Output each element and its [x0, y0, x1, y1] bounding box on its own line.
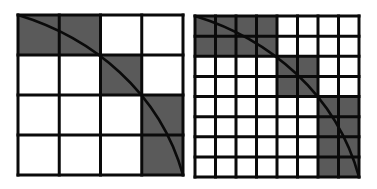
empty-cell — [101, 95, 142, 135]
shaded-cell — [318, 157, 339, 177]
empty-cell — [318, 76, 339, 96]
empty-cell — [257, 117, 278, 137]
empty-cell — [236, 157, 257, 177]
empty-cell — [257, 97, 278, 117]
empty-cell — [298, 16, 319, 36]
shaded-cell — [236, 36, 257, 56]
shaded-cell — [216, 36, 237, 56]
empty-cell — [18, 135, 59, 175]
empty-cell — [318, 56, 339, 76]
fine-grid-svg — [195, 16, 359, 177]
empty-cell — [216, 137, 237, 157]
empty-cell — [142, 55, 183, 95]
empty-cell — [257, 56, 278, 76]
empty-cell — [298, 97, 319, 117]
empty-cell — [18, 95, 59, 135]
empty-cell — [339, 76, 360, 96]
empty-cell — [101, 15, 142, 55]
empty-cell — [59, 135, 100, 175]
empty-cell — [277, 16, 298, 36]
empty-cell — [101, 135, 142, 175]
shaded-cell — [257, 16, 278, 36]
grid-curve-figure — [0, 0, 377, 189]
empty-cell — [195, 56, 216, 76]
empty-cell — [318, 36, 339, 56]
empty-cell — [257, 137, 278, 157]
shaded-cell — [277, 76, 298, 96]
shaded-cell — [195, 36, 216, 56]
empty-cell — [195, 97, 216, 117]
empty-cell — [339, 36, 360, 56]
empty-cell — [298, 36, 319, 56]
empty-cell — [257, 157, 278, 177]
empty-cell — [236, 117, 257, 137]
empty-cell — [18, 55, 59, 95]
empty-cell — [298, 157, 319, 177]
empty-cell — [298, 117, 319, 137]
empty-cell — [339, 16, 360, 36]
empty-cell — [277, 97, 298, 117]
empty-cell — [236, 137, 257, 157]
coarse-grid-panel — [18, 15, 183, 175]
empty-cell — [195, 117, 216, 137]
shaded-cell — [142, 95, 183, 135]
empty-cell — [277, 157, 298, 177]
empty-cell — [216, 76, 237, 96]
empty-cell — [142, 15, 183, 55]
empty-cell — [195, 157, 216, 177]
empty-cell — [277, 117, 298, 137]
empty-cell — [236, 97, 257, 117]
empty-cell — [318, 16, 339, 36]
shaded-cell — [298, 56, 319, 76]
empty-cell — [216, 157, 237, 177]
empty-cell — [339, 56, 360, 76]
empty-cell — [195, 137, 216, 157]
shaded-cell — [339, 97, 360, 117]
empty-cell — [257, 76, 278, 96]
empty-cell — [277, 137, 298, 157]
empty-cell — [236, 56, 257, 76]
empty-cell — [277, 36, 298, 56]
fine-grid-panel — [195, 16, 359, 177]
empty-cell — [59, 55, 100, 95]
empty-cell — [216, 97, 237, 117]
empty-cell — [195, 76, 216, 96]
empty-cell — [236, 76, 257, 96]
coarse-grid-svg — [18, 15, 183, 175]
empty-cell — [216, 117, 237, 137]
empty-cell — [59, 95, 100, 135]
empty-cell — [216, 56, 237, 76]
empty-cell — [298, 137, 319, 157]
shaded-cell — [318, 137, 339, 157]
